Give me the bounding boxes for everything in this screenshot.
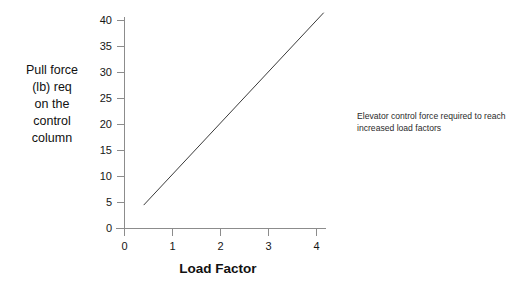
y-tick-label-10: 10 <box>100 170 112 182</box>
data-series-line <box>144 13 324 205</box>
x-tick-label-3: 3 <box>265 240 271 252</box>
x-tick-label-2: 2 <box>217 240 223 252</box>
x-tick-label-1: 1 <box>169 240 175 252</box>
x-tick-label-0: 0 <box>121 240 127 252</box>
chart-annotation-line-1: Elevator control force required to reach <box>357 110 517 122</box>
chart-annotation-line-2: increased load factors <box>357 122 517 134</box>
chart-figure: Pull force (lb) req on the control colum… <box>0 0 523 289</box>
x-tick-label-4: 4 <box>313 240 319 252</box>
y-tick-label-25: 25 <box>100 92 112 104</box>
x-tick-group <box>125 229 317 237</box>
x-tick-labels: 0 1 2 3 4 <box>121 240 319 252</box>
y-tick-group <box>117 21 125 229</box>
chart-annotation: Elevator control force required to reach… <box>357 110 517 134</box>
y-tick-label-35: 35 <box>100 40 112 52</box>
y-tick-label-5: 5 <box>106 196 112 208</box>
y-tick-labels: 0 5 10 15 20 25 30 35 40 <box>100 14 112 234</box>
y-tick-label-30: 30 <box>100 66 112 78</box>
y-tick-label-15: 15 <box>100 144 112 156</box>
y-tick-label-0: 0 <box>106 222 112 234</box>
y-tick-label-40: 40 <box>100 14 112 26</box>
y-tick-label-20: 20 <box>100 118 112 130</box>
x-axis-title: Load Factor <box>118 261 318 276</box>
plot-area: 0 5 10 15 20 25 30 35 40 0 1 2 3 4 <box>0 0 523 289</box>
